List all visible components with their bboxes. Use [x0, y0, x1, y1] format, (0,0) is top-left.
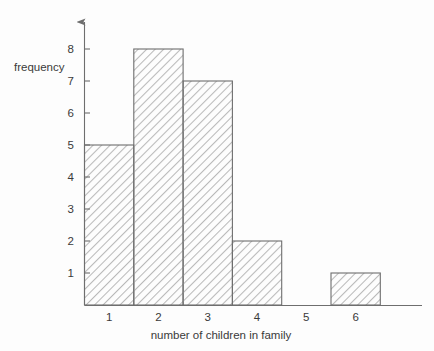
y-tick-label-4: 4 — [68, 171, 75, 183]
bar-category-6 — [331, 273, 380, 305]
bar-category-3 — [183, 81, 232, 305]
y-tick-label-2: 2 — [68, 235, 74, 247]
x-tick-label-3: 3 — [204, 311, 210, 323]
x-tick-label-5: 5 — [303, 311, 309, 323]
histogram-figure: 1 2 3 4 5 6 7 8 1 2 3 4 5 6 frequency nu… — [0, 0, 434, 351]
x-tick-labels-group: 1 2 3 4 5 6 — [106, 311, 359, 323]
x-tick-label-2: 2 — [155, 311, 161, 323]
y-tick-label-3: 3 — [68, 203, 74, 215]
bar-category-4 — [232, 241, 281, 305]
x-tick-label-6: 6 — [352, 311, 358, 323]
histogram-canvas: 1 2 3 4 5 6 7 8 1 2 3 4 5 6 frequency nu… — [0, 0, 434, 351]
x-axis-title: number of children in family — [151, 329, 292, 341]
x-tick-label-1: 1 — [106, 311, 112, 323]
y-tick-label-8: 8 — [68, 43, 74, 55]
y-tick-label-5: 5 — [68, 139, 74, 151]
bars-group — [85, 49, 381, 305]
y-tick-label-6: 6 — [68, 107, 74, 119]
y-tick-label-1: 1 — [68, 267, 74, 279]
bar-category-2 — [134, 49, 183, 305]
bar-category-1 — [85, 145, 134, 305]
y-tick-label-7: 7 — [68, 75, 74, 87]
x-tick-label-4: 4 — [254, 311, 261, 323]
y-tick-labels-group: 1 2 3 4 5 6 7 8 — [68, 43, 75, 279]
y-axis-title: frequency — [14, 61, 65, 73]
